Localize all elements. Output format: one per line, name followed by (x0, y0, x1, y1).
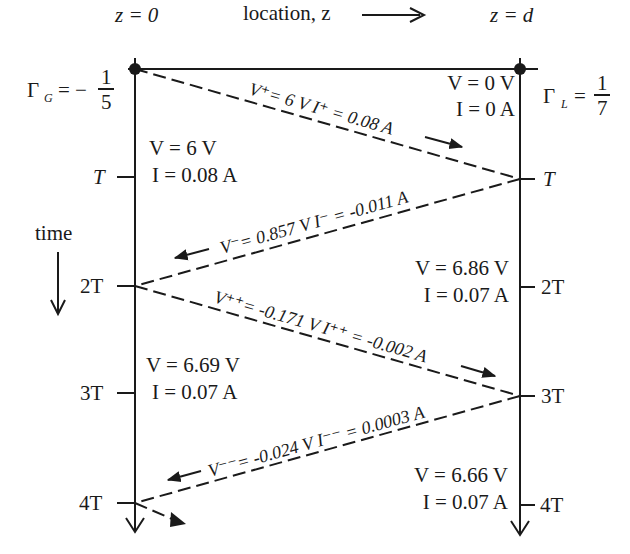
svg-text:1: 1 (101, 65, 112, 89)
wave-label-2: V⁻= 0.857 V I⁻ = -0.011 A (218, 186, 412, 257)
left-tick-3T: 3T (80, 381, 135, 405)
right-tick-4T: 4T (520, 493, 564, 517)
left-tick-2T: 2T (80, 274, 135, 298)
time-arrow-icon (51, 252, 65, 314)
right-tick-2T: 2T (520, 275, 565, 299)
gamma-l: Γ L = 1 7 (543, 71, 610, 120)
state-4-voltage: V = 6.66 V (414, 463, 508, 487)
wave-dir-arrow-2 (175, 249, 209, 258)
svg-text:2T: 2T (541, 275, 565, 299)
svg-text:2T: 2T (80, 274, 104, 298)
wave-dir-arrow-3 (461, 366, 495, 376)
z0-label: z = 0 (114, 3, 159, 27)
wave-label-4: V⁻⁻= -0.024 V I⁻⁻ = 0.0003 A (206, 402, 428, 481)
state-2-current: I = 0.07 A (424, 283, 510, 307)
location-label: location, z (243, 1, 330, 25)
time-label: time (35, 221, 72, 245)
wave-dir-arrow-4 (168, 471, 201, 480)
state-3-voltage: V = 6.69 V (146, 353, 240, 377)
svg-text:4T: 4T (79, 491, 103, 515)
right-tick-T: T (520, 167, 556, 191)
wave-label-1: V⁺= 6 V I⁺ = 0.08 A (247, 79, 397, 139)
state-0-current: I = 0 A (456, 97, 516, 121)
right-tick-3T: 3T (520, 384, 565, 408)
svg-text:=: = (574, 84, 586, 108)
gamma-g: Γ G = − 1 5 (27, 65, 114, 114)
location-arrow-icon (362, 8, 424, 22)
svg-text:5: 5 (101, 90, 112, 114)
left-tick-T: T (93, 165, 135, 189)
state-2-voltage: V = 6.86 V (415, 256, 509, 280)
wave-dir-arrow-1 (425, 137, 462, 147)
state-0-voltage: V = 0 V (447, 71, 515, 95)
svg-text:Γ: Γ (27, 78, 39, 102)
left-tick-4T: 4T (79, 491, 135, 515)
state-4-current: I = 0.07 A (423, 490, 509, 514)
svg-text:L: L (560, 97, 568, 111)
wave-forward-3 (135, 503, 172, 519)
svg-text:3T: 3T (80, 381, 104, 405)
continuation-arrow-icon (170, 512, 186, 527)
svg-text:4T: 4T (540, 493, 564, 517)
state-1-voltage: V = 6 V (149, 136, 217, 160)
wave-label-3: V⁺⁺= -0.171 V I⁺⁺ = -0.002 A (212, 287, 431, 367)
svg-text:3T: 3T (541, 384, 565, 408)
zd-label: z = d (489, 3, 534, 27)
state-3-current: I = 0.07 A (152, 380, 238, 404)
svg-text:= −: = − (58, 78, 87, 102)
svg-text:G: G (44, 91, 53, 105)
svg-text:Γ: Γ (543, 84, 555, 108)
svg-text:T: T (93, 165, 106, 189)
state-1-current: I = 0.08 A (152, 163, 238, 187)
bounce-diagram: z = 0 location, z z = d Γ G = − 1 5 Γ L … (0, 0, 630, 554)
svg-text:7: 7 (597, 96, 608, 120)
svg-text:1: 1 (597, 71, 608, 95)
svg-text:T: T (543, 167, 556, 191)
